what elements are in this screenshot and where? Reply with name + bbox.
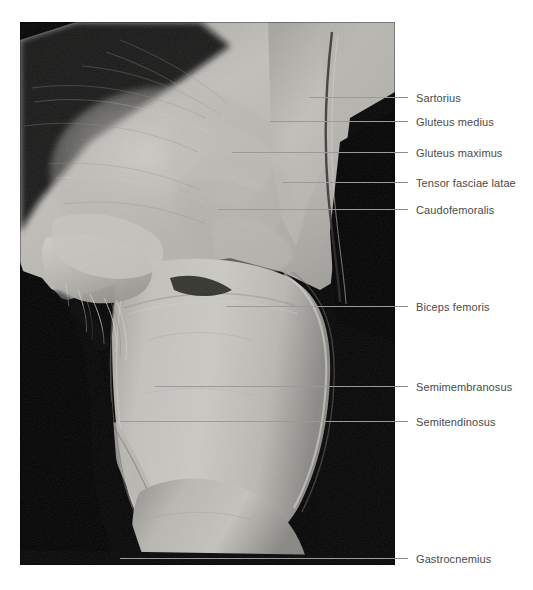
leader-line-semitendinosus [120, 421, 395, 422]
anatomical-figure: SartoriusGluteus mediusGluteus maximusTe… [0, 0, 533, 590]
label-gluteus-maximus: Gluteus maximus [416, 147, 502, 159]
label-semitendinosus: Semitendinosus [416, 416, 496, 428]
leader-line-outer-semitendinosus [395, 421, 408, 422]
label-biceps-femoris: Biceps femoris [416, 301, 490, 313]
label-caudofemoralis: Caudofemoralis [416, 204, 494, 216]
leader-line-gluteus-medius [270, 121, 395, 122]
label-semimembranosus: Semimembranosus [416, 381, 512, 393]
leader-line-outer-sartorius [395, 97, 408, 98]
leader-line-outer-gastrocnemius [395, 558, 408, 559]
leader-line-gastrocnemius [120, 558, 395, 559]
leader-line-tensor-fasciae-latae [283, 182, 395, 183]
leader-line-semimembranosus [155, 386, 395, 387]
leader-line-caudofemoralis [218, 209, 395, 210]
leader-line-outer-tensor-fasciae-latae [395, 182, 408, 183]
specimen-photograph [20, 22, 395, 565]
leader-line-gluteus-maximus [232, 152, 395, 153]
leader-line-outer-caudofemoralis [395, 209, 408, 210]
leader-line-outer-semimembranosus [395, 386, 408, 387]
label-gastrocnemius: Gastrocnemius [416, 553, 491, 565]
leader-line-outer-gluteus-medius [395, 121, 408, 122]
label-gluteus-medius: Gluteus medius [416, 116, 494, 128]
leader-line-outer-gluteus-maximus [395, 152, 408, 153]
leader-line-sartorius [309, 97, 395, 98]
label-tensor-fasciae-latae: Tensor fasciae latae [416, 177, 516, 189]
label-sartorius: Sartorius [416, 92, 461, 104]
leader-line-biceps-femoris [226, 306, 395, 307]
specimen-photo-canvas [20, 22, 395, 565]
leader-line-outer-biceps-femoris [395, 306, 408, 307]
